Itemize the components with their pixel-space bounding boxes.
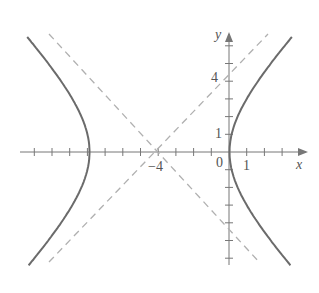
- x-axis-label: x: [296, 158, 302, 172]
- hyperbola-plot: [0, 0, 319, 293]
- origin-label: 0: [216, 156, 223, 170]
- y-tick-label-4: 4: [211, 71, 218, 85]
- x-tick-label-center: −4: [148, 160, 163, 174]
- x-tick-label-1: 1: [243, 159, 250, 173]
- asymptote-positive: [49, 34, 268, 262]
- y-axis-label: y: [215, 28, 221, 42]
- asymptote-negative: [49, 34, 260, 263]
- y-tick-label-1: 1: [215, 127, 222, 141]
- hyperbola-left-branch: [27, 37, 89, 265]
